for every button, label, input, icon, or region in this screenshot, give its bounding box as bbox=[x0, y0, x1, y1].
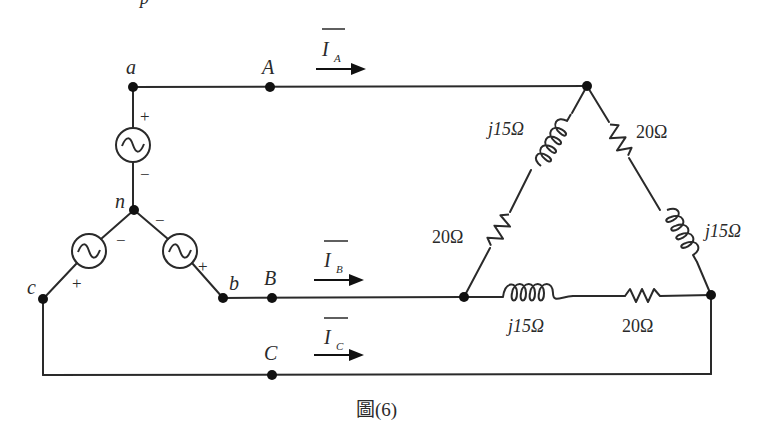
current-IA: I A bbox=[316, 29, 366, 75]
line-a-wire bbox=[133, 86, 587, 87]
node-c bbox=[38, 294, 48, 304]
label-node-B: B bbox=[264, 267, 276, 289]
label-node-A: A bbox=[260, 56, 275, 78]
source-c: − + bbox=[43, 210, 134, 299]
node-delta-apex bbox=[582, 81, 592, 91]
current-IC-sub: C bbox=[336, 340, 344, 352]
label-node-a: a bbox=[126, 56, 136, 78]
node-delta-bottom-right bbox=[706, 290, 716, 300]
inductor-icon bbox=[533, 110, 576, 169]
resistor-icon bbox=[604, 121, 634, 159]
source-b: − + bbox=[134, 210, 223, 298]
delta-branch-ab: j15Ω 20Ω bbox=[432, 86, 587, 297]
current-IA-sub: A bbox=[333, 52, 341, 64]
label-ac-resistor: 20Ω bbox=[636, 122, 667, 142]
sine-wave-icon bbox=[78, 244, 100, 257]
node-C bbox=[267, 370, 277, 380]
resistor-icon bbox=[625, 289, 660, 302]
source-b-plus: + bbox=[198, 257, 208, 276]
source-c-plus: + bbox=[72, 274, 82, 293]
label-node-b: b bbox=[229, 272, 239, 294]
current-IB-sub: B bbox=[336, 263, 343, 275]
inductor-icon bbox=[662, 206, 705, 265]
line-b-wire bbox=[223, 297, 464, 298]
source-a-minus: − bbox=[140, 165, 150, 184]
current-IC-base: I bbox=[323, 326, 332, 348]
delta-branch-bc: j15Ω 20Ω bbox=[464, 284, 711, 336]
current-IC: I C bbox=[314, 318, 364, 361]
label-node-c: c bbox=[27, 276, 36, 298]
resistor-icon bbox=[485, 211, 515, 249]
inductor-icon bbox=[503, 284, 573, 301]
label-node-C: C bbox=[264, 342, 278, 364]
current-IA-base: I bbox=[321, 38, 330, 60]
node-A bbox=[265, 82, 275, 92]
node-B bbox=[267, 293, 277, 303]
delta-branch-ac: 20Ω j15Ω bbox=[587, 86, 741, 295]
circuit-diagram: p + − − + − + bbox=[0, 0, 775, 441]
node-n bbox=[129, 205, 139, 215]
current-IB: I B bbox=[314, 241, 364, 286]
label-bc-resistor: 20Ω bbox=[622, 316, 653, 336]
current-IB-base: I bbox=[323, 249, 332, 271]
node-delta-bottom-left bbox=[459, 292, 469, 302]
line-c-wire bbox=[43, 295, 711, 375]
source-a-plus: + bbox=[140, 107, 150, 126]
label-ab-resistor: 20Ω bbox=[432, 227, 463, 247]
label-node-n: n bbox=[115, 190, 125, 212]
source-c-minus: − bbox=[116, 231, 126, 250]
node-b bbox=[218, 293, 228, 303]
source-b-minus: − bbox=[155, 211, 165, 230]
node-a bbox=[128, 82, 138, 92]
label-bc-inductor: j15Ω bbox=[506, 316, 544, 336]
label-ab-inductor: j15Ω bbox=[486, 119, 524, 139]
top-text-fragment: p bbox=[138, 0, 149, 8]
label-ac-inductor: j15Ω bbox=[703, 221, 741, 241]
figure-caption: 圖(6) bbox=[356, 399, 397, 421]
sine-wave-icon bbox=[169, 244, 191, 257]
sine-wave-icon bbox=[122, 138, 144, 151]
